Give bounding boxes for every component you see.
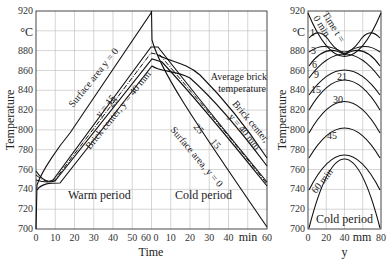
xtick: 40 xyxy=(340,232,350,243)
ytick: 700 xyxy=(18,223,33,234)
left-x-ticks: 0 10 20 30 40 50 60 0 10 20 30 40 min 60 xyxy=(34,230,273,244)
ytick: 860 xyxy=(18,65,33,76)
xtick: 10 xyxy=(166,232,176,243)
xtick: 60 xyxy=(141,232,151,243)
x-axis-label: y xyxy=(342,245,348,259)
right-chart: 920 880 860 840 820 800 780 760 740 720 … xyxy=(275,5,386,259)
ytick: 840 xyxy=(18,84,33,95)
right-y-ticks: 920 880 860 840 820 800 780 760 740 720 … xyxy=(290,5,305,234)
ytick: 800 xyxy=(290,124,305,135)
curve-label: 3 xyxy=(311,45,316,56)
y-unit: °C xyxy=(292,25,305,39)
cold-period-label: Cold period xyxy=(175,188,232,202)
left-y-ticks: 920 880 860 840 820 800 780 760 740 720 … xyxy=(18,5,33,234)
ytick: 740 xyxy=(290,183,305,194)
x-axis-label: Time xyxy=(139,245,164,259)
ytick: 860 xyxy=(290,65,305,76)
y-axis-label: Temperature xyxy=(3,90,17,150)
ytick: 800 xyxy=(18,124,33,135)
xtick: 40 xyxy=(224,232,234,243)
curve-label: 9 xyxy=(314,69,319,80)
ytick: 840 xyxy=(290,84,305,95)
curve-label: 15 xyxy=(311,84,321,95)
ytick: 920 xyxy=(290,5,305,16)
ytick: 880 xyxy=(18,45,33,56)
ytick: 780 xyxy=(290,144,305,155)
annotation: 15 xyxy=(208,136,223,151)
ytick: 720 xyxy=(290,203,305,214)
xtick: 20 xyxy=(70,232,80,243)
annotation: temperature xyxy=(218,83,266,94)
chart-canvas: 920 880 860 840 820 800 780 760 740 720 … xyxy=(0,0,392,261)
right-x-ticks: 0 20 40 mm 80 xyxy=(306,230,387,244)
ytick: 720 xyxy=(18,203,33,214)
ytick: 820 xyxy=(18,104,33,115)
ytick: 760 xyxy=(290,164,305,175)
ytick: 760 xyxy=(18,164,33,175)
annotation: Average brick xyxy=(211,71,267,82)
warm-period-label: Warm period xyxy=(68,188,131,202)
ytick: 780 xyxy=(18,144,33,155)
curve-label: 45 xyxy=(327,130,337,141)
left-chart: 920 880 860 840 820 800 780 760 740 720 … xyxy=(3,5,272,259)
xtick: 50 xyxy=(127,232,137,243)
xtick: 80 xyxy=(376,232,386,243)
cold-period-label: Cold period xyxy=(316,212,373,226)
ytick: 740 xyxy=(18,183,33,194)
xtick: 10 xyxy=(50,232,60,243)
xtick: 20 xyxy=(321,232,331,243)
y-unit: °C xyxy=(20,25,33,39)
ytick: 880 xyxy=(290,45,305,56)
xtick-unit: min xyxy=(239,230,258,244)
curve-label: 21 xyxy=(337,71,347,82)
xtick-unit: mm xyxy=(353,230,372,244)
ytick: 920 xyxy=(18,5,33,16)
curve-label: 60 min xyxy=(309,166,335,195)
xtick: 0 xyxy=(154,232,159,243)
ytick: 820 xyxy=(290,104,305,115)
xtick: 30 xyxy=(89,232,99,243)
y-axis-label: Temperature xyxy=(275,90,289,150)
ytick: 700 xyxy=(290,223,305,234)
curve-label: 1 xyxy=(310,27,315,38)
xtick: 40 xyxy=(108,232,118,243)
xtick: 0 xyxy=(34,232,39,243)
xtick: 20 xyxy=(185,232,195,243)
curve-label: 30 xyxy=(333,94,343,105)
xtick: 30 xyxy=(204,232,214,243)
xtick: 0 xyxy=(306,232,311,243)
xtick: 60 xyxy=(262,232,272,243)
